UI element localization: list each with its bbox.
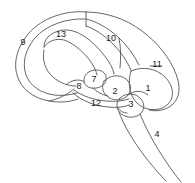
callout-label-2: 2: [112, 87, 117, 96]
callout-label-1: 1: [145, 84, 150, 93]
callout-label-8: 8: [76, 82, 81, 91]
spinal-cord-anterior-edge: [119, 112, 166, 181]
callout-label-11: 11: [152, 60, 161, 69]
cerebellum-outline: [129, 68, 172, 109]
callout-label-13: 13: [56, 30, 66, 39]
callout-label-3: 3: [128, 100, 133, 109]
callout-label-7: 7: [91, 75, 96, 84]
callout-label-10: 10: [106, 34, 116, 43]
fornix-loop-lower: [44, 39, 97, 75]
brain-diagram-figure: 1 2 3 4 7 8 9 10 11 12 13: [0, 0, 195, 183]
callosum-tick-right: [119, 38, 121, 68]
callout-label-12: 12: [91, 99, 101, 108]
brain-outline-graphic: [0, 0, 195, 183]
callout-label-9: 9: [20, 38, 25, 47]
callout-label-4: 4: [154, 130, 159, 139]
outer-cortex-outline: [16, 12, 86, 102]
inferior-band-upper: [43, 50, 76, 86]
spinal-cord-posterior-edge: [140, 114, 181, 182]
